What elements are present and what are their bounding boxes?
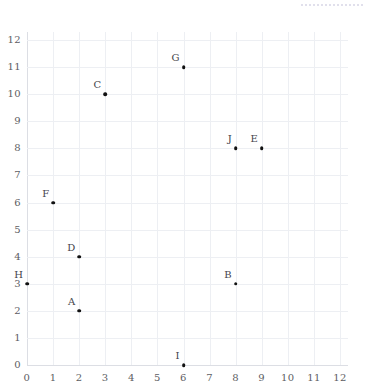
x-axis-tick-label: 10 <box>281 373 295 383</box>
y-axis-tick-label: 2 <box>6 306 21 316</box>
gridline-horizontal <box>27 284 348 285</box>
x-axis-tick-label: 5 <box>154 373 161 383</box>
gridline-vertical <box>105 32 106 365</box>
x-axis-tick-label: 11 <box>307 373 321 383</box>
x-axis-tick-label: 0 <box>24 373 31 383</box>
gridline-horizontal <box>27 311 348 312</box>
plot-area: 01234567891011120123456789101112ABCDEFGH… <box>0 0 371 387</box>
x-axis-tick-label: 12 <box>333 373 347 383</box>
y-axis-tick-label: 6 <box>6 198 21 208</box>
x-axis-tick-label: 7 <box>206 373 213 383</box>
gridline-horizontal <box>27 203 348 204</box>
data-point-label-b: B <box>224 270 231 280</box>
gridline-horizontal <box>27 257 348 258</box>
y-axis-tick-label: 7 <box>6 170 21 180</box>
gridline-vertical <box>210 32 211 365</box>
y-axis-tick-label: 11 <box>6 62 21 72</box>
data-point-label-i: I <box>176 351 180 361</box>
data-point-c[interactable] <box>103 92 107 96</box>
x-axis-tick-label: 1 <box>50 373 57 383</box>
x-axis-tick-label: 3 <box>102 373 109 383</box>
gridline-horizontal <box>27 67 348 68</box>
y-axis-tick-label: 12 <box>6 35 21 45</box>
gridline-vertical <box>236 32 237 365</box>
data-point-label-g: G <box>172 53 180 63</box>
x-axis-tick-label: 8 <box>232 373 239 383</box>
data-point-d[interactable] <box>77 255 81 259</box>
data-point-i[interactable] <box>182 363 186 367</box>
gridline-horizontal <box>27 230 348 231</box>
gridline-vertical <box>131 32 132 365</box>
data-point-label-h: H <box>14 270 23 280</box>
gridline-vertical <box>184 32 185 365</box>
gridline-horizontal <box>27 94 348 95</box>
data-point-label-c: C <box>94 80 102 90</box>
data-point-e[interactable] <box>260 147 264 151</box>
gridline-vertical <box>262 32 263 365</box>
data-point-j[interactable] <box>234 147 238 151</box>
gridline-horizontal <box>27 40 348 41</box>
data-point-a[interactable] <box>77 309 81 313</box>
x-axis-tick-label: 6 <box>180 373 187 383</box>
x-axis-line <box>27 365 348 366</box>
gridline-vertical <box>53 32 54 365</box>
x-axis-tick-label: 2 <box>76 373 83 383</box>
y-axis-line <box>27 32 28 365</box>
gridline-vertical <box>314 32 315 365</box>
gridline-horizontal <box>27 338 348 339</box>
data-point-label-f: F <box>42 189 49 199</box>
y-axis-tick-label: 5 <box>6 225 21 235</box>
data-point-h[interactable] <box>25 282 29 286</box>
y-axis-tick-label: 4 <box>6 252 21 262</box>
data-point-label-a: A <box>68 297 75 307</box>
data-point-label-e: E <box>250 134 257 144</box>
gridline-vertical <box>340 32 341 365</box>
y-axis-tick-label: 9 <box>6 116 21 126</box>
gridline-horizontal <box>27 175 348 176</box>
x-axis-tick-label: 4 <box>128 373 135 383</box>
scatter-plot-figure: 01234567891011120123456789101112ABCDEFGH… <box>0 0 371 387</box>
y-axis-tick-label: 8 <box>6 143 21 153</box>
y-axis-tick-label: 3 <box>6 279 21 289</box>
y-axis-tick-label: 0 <box>6 360 21 370</box>
gridline-vertical <box>157 32 158 365</box>
data-point-b[interactable] <box>234 282 238 286</box>
y-axis-tick-label: 1 <box>6 333 21 343</box>
gridline-vertical <box>79 32 80 365</box>
data-point-f[interactable] <box>51 201 55 205</box>
gridline-horizontal <box>27 148 348 149</box>
data-point-g[interactable] <box>182 65 186 69</box>
x-axis-tick-label: 9 <box>258 373 265 383</box>
gridline-vertical <box>288 32 289 365</box>
data-point-label-j: J <box>228 134 232 144</box>
gridline-horizontal <box>27 121 348 122</box>
data-point-label-d: D <box>67 243 75 253</box>
y-axis-tick-label: 10 <box>6 89 21 99</box>
